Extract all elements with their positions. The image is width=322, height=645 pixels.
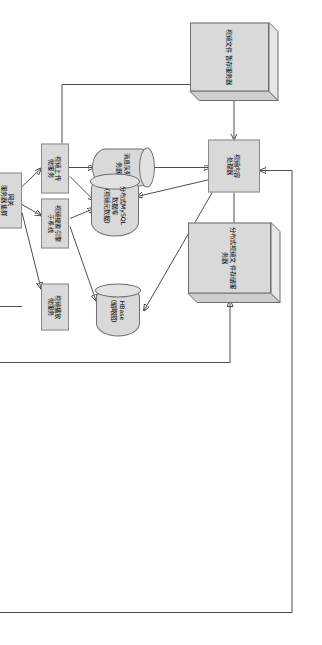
node-label: 视频上传 微服务 — [48, 156, 62, 181]
node-label: HBase （缩略图） — [96, 284, 140, 336]
node-label: 视频播放 微服务 — [48, 294, 62, 319]
node-label: 网关 服务器集群 — [1, 185, 15, 216]
node-hbase[interactable]: HBase （缩略图） — [96, 284, 140, 336]
node-video-upload-microservice[interactable]: 视频上传 微服务 — [41, 143, 69, 193]
node-gateway-server-cluster[interactable]: 网关 服务器集群 — [0, 172, 22, 228]
node-video-file-temp-server[interactable]: 视频文件 暂存服务器 — [190, 22, 278, 100]
diagram-canvas: 视频文件 暂存服务器 视频内容 处理器 分布式视频文 件存储服务器 消息队列服务… — [0, 0, 322, 645]
node-label: 视频搜索引擎 子系统 — [48, 204, 62, 241]
node-label: 分布式MySQL 数据库 （视频元数据） — [91, 174, 139, 236]
node-distributed-mysql-database[interactable]: 分布式MySQL 数据库 （视频元数据） — [91, 174, 139, 236]
node-label: 视频文件 暂存服务器 — [190, 22, 269, 91]
node-video-content-processor[interactable]: 视频内容 处理器 — [208, 139, 260, 192]
node-video-playback-microservice[interactable]: 视频播放 微服务 — [41, 283, 69, 330]
node-label: 分布式视频文 件存储服务器 — [188, 222, 271, 293]
node-distributed-video-file-storage-server[interactable]: 分布式视频文 件存储服务器 — [188, 222, 280, 302]
node-label: 视频内容 处理器 — [227, 153, 241, 178]
node-video-search-engine-subsystem[interactable]: 视频搜索引擎 子系统 — [41, 198, 69, 248]
